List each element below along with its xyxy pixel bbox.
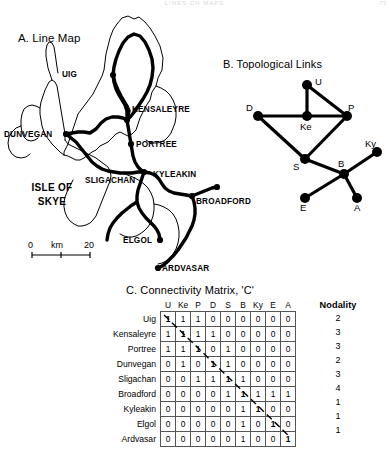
matrix-cell: 0 — [206, 417, 221, 432]
matrix-cell: 1 — [236, 372, 251, 387]
matrix-corner-cell — [100, 299, 161, 312]
matrix-cell: 0 — [266, 357, 281, 372]
matrix-col-header-ky: Ky — [251, 299, 266, 312]
panel-c-connectivity-matrix: C. Connectivity Matrix, 'C' UKePDSBKyEA … — [100, 284, 389, 452]
matrix-cell: 0 — [161, 417, 176, 432]
matrix-col-header-d: D — [206, 299, 221, 312]
matrix-row: Portree111010000 — [100, 342, 296, 357]
matrix-cell: 1 — [251, 387, 266, 402]
nodality-value: 3 — [296, 325, 380, 339]
scale-end-label: 20 — [84, 240, 94, 250]
skye-map-graphic — [0, 12, 240, 274]
node-u — [302, 80, 312, 90]
matrix-cell: 0 — [161, 432, 176, 447]
matrix-cell: 1 — [236, 387, 251, 402]
matrix-cell: 1 — [221, 357, 236, 372]
dot-elgol — [157, 237, 163, 243]
nodality-value: 1 — [296, 409, 380, 423]
graph-nodes — [253, 80, 382, 203]
matrix-row: Dunvegan010110000 — [100, 357, 296, 372]
matrix-row: Kyleakin000001100 — [100, 402, 296, 417]
nodality-value: 1 — [296, 423, 380, 437]
matrix-cell: 1 — [176, 312, 191, 327]
matrix-cell: 0 — [161, 357, 176, 372]
edge-d-s — [258, 116, 305, 159]
matrix-cell: 1 — [221, 372, 236, 387]
matrix-cell: 1 — [236, 402, 251, 417]
node-s — [300, 154, 310, 164]
matrix-row: Ardvasar000001001 — [100, 432, 296, 447]
matrix-cell: 0 — [176, 387, 191, 402]
node-d — [253, 111, 263, 121]
matrix-cell: 1 — [221, 342, 236, 357]
matrix-cell: 1 — [221, 387, 236, 402]
node-label-ky: Ky — [365, 139, 376, 149]
map-label-kensaleyre: KENSALEYRE — [132, 105, 190, 114]
map-label-sligachan: SLIGACHAN — [85, 176, 135, 185]
matrix-cell: 0 — [251, 312, 266, 327]
matrix-cell: 1 — [161, 312, 176, 327]
matrix-body: Uig111000000Kensaleyre111100000Portree11… — [100, 312, 296, 447]
matrix-cell: 0 — [281, 357, 296, 372]
matrix-row-header-broadford: Broadford — [100, 387, 161, 402]
nodality-header: Nodality — [296, 299, 380, 311]
matrix-cell: 1 — [191, 327, 206, 342]
matrix-row: Elgol000001010 — [100, 417, 296, 432]
matrix-cell: 1 — [176, 357, 191, 372]
matrix-cell: 0 — [251, 432, 266, 447]
dot-portree — [128, 141, 134, 147]
matrix-cell: 1 — [176, 327, 191, 342]
matrix-cell: 1 — [206, 357, 221, 372]
connectivity-matrix-table: UKePDSBKyEA Uig111000000Kensaleyre111100… — [100, 299, 296, 447]
matrix-row: Broadford000011111 — [100, 387, 296, 402]
node-label-d: D — [246, 103, 253, 113]
matrix-cell: 0 — [251, 372, 266, 387]
matrix-row-header-portree: Portree — [100, 342, 161, 357]
map-label-kyleakin: KYLEAKIN — [153, 170, 196, 179]
matrix-cell: 0 — [236, 312, 251, 327]
node-label-u: U — [315, 77, 322, 87]
matrix-header-row: UKePDSBKyEA — [100, 299, 296, 312]
matrix-cell: 0 — [191, 417, 206, 432]
matrix-row-header-dunvegan: Dunvegan — [100, 357, 161, 372]
matrix-cell: 0 — [281, 372, 296, 387]
panel-b-topological-links: B. Topological Links — [205, 58, 389, 223]
matrix-cell: 0 — [281, 312, 296, 327]
scale-bar — [32, 252, 90, 258]
matrix-cell: 0 — [206, 342, 221, 357]
figure-root: LINES ON MAPS 77 A. Line Map — [0, 0, 389, 452]
matrix-row: Kensaleyre111100000 — [100, 327, 296, 342]
matrix-cell: 1 — [206, 327, 221, 342]
edge-b-ky — [344, 152, 377, 174]
matrix-cell: 1 — [191, 312, 206, 327]
matrix-cell: 1 — [281, 387, 296, 402]
matrix-row-header-kensaleyre: Kensaleyre — [100, 327, 161, 342]
map-region-label-line1: ISLE OF — [12, 182, 92, 194]
matrix-cell: 0 — [251, 357, 266, 372]
scale-unit-label: km — [51, 240, 63, 250]
page-header: LINES ON MAPS — [0, 0, 389, 8]
scale-start-label: 0 — [28, 240, 33, 250]
matrix-cell: 0 — [266, 312, 281, 327]
node-label-ke: Ke — [300, 122, 312, 132]
matrix-cell: 0 — [251, 327, 266, 342]
nodality-value: 2 — [296, 311, 380, 325]
matrix-cell: 0 — [266, 342, 281, 357]
matrix-cell: 1 — [281, 432, 296, 447]
matrix-row: Sligachan001111000 — [100, 372, 296, 387]
matrix-cell: 1 — [161, 342, 176, 357]
matrix-col-header-a: A — [281, 299, 296, 312]
matrix-row-header-elgol: Elgol — [100, 417, 161, 432]
matrix-cell: 1 — [251, 402, 266, 417]
panel-b-title: B. Topological Links — [223, 58, 322, 70]
matrix-cell: 0 — [206, 312, 221, 327]
matrix-cell: 0 — [206, 432, 221, 447]
matrix-cell: 0 — [161, 372, 176, 387]
node-label-b: B — [338, 159, 344, 169]
map-label-elgol: ELGOL — [123, 236, 152, 245]
matrix-cell: 0 — [206, 387, 221, 402]
map-region-label-line2: SKYE — [12, 196, 92, 208]
matrix-cell: 1 — [266, 417, 281, 432]
map-label-dunvegan: DUNVEGAN — [4, 130, 52, 139]
matrix-cell: 0 — [266, 402, 281, 417]
